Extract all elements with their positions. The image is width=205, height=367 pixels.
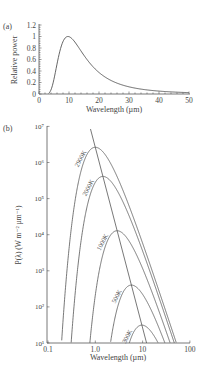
panel-a-x-tick-label: 30 [125, 96, 133, 105]
panel-b-y-tick-label: 10⁷ [35, 123, 45, 131]
panel-b-x-label: Wavelength (µm) [90, 353, 147, 362]
panel-a-x-tick-label: 20 [95, 96, 103, 105]
panel-a-y-tick-label: 0.2 [27, 78, 37, 87]
curve-2000K [71, 176, 174, 343]
panel-a-y-tick-label: 0.4 [27, 67, 37, 76]
wien-displacement-line [90, 129, 146, 343]
panel-a-y-tick-label: 0 [32, 90, 36, 99]
panel-a: (a) 0102030405000.20.40.60.811.2 Wavelen… [3, 21, 193, 115]
panel-b-y-tick-label: 10³ [35, 267, 44, 275]
panel-a-x-tick-label: 50 [185, 96, 193, 105]
curve-300K [129, 325, 158, 343]
panel-a-curve [49, 37, 189, 94]
panel-b-y-tick-label: 10⁵ [35, 195, 45, 203]
figure: (a) 0102030405000.20.40.60.811.2 Wavelen… [0, 0, 205, 367]
panel-b-y-tick-label: 10² [35, 303, 44, 311]
panel-b: (b) 0.11.01010010¹10²10³10⁴10⁵10⁶10⁷ 290… [3, 123, 196, 362]
panel-a-y-tick-label: 0.8 [27, 44, 37, 53]
panel-a-y-tick-label: 1.2 [27, 21, 37, 30]
panel-b-x-tick-label: 100 [184, 345, 196, 354]
panel-b-y-label: P(λ) (W m⁻² µm⁻¹) [14, 205, 23, 264]
curve-2900K [62, 147, 176, 342]
panel-a-x-tick-label: 10 [65, 96, 73, 105]
panel-b-label: (b) [3, 124, 13, 133]
panel-b-x-tick-label: 0.1 [43, 345, 53, 354]
panel-a-y-label: Relative power [10, 35, 19, 84]
panel-b-y-tick-label: 10⁶ [35, 159, 45, 167]
panel-a-x-tick-label: 0 [37, 96, 41, 105]
panel-a-label: (a) [3, 22, 12, 31]
panel-b-y-tick-label: 10⁴ [35, 231, 45, 239]
panel-a-x-label: Wavelength (µm) [86, 105, 143, 114]
panel-b-y-tick-label: 10¹ [35, 340, 44, 348]
panel-a-y-tick-label: 0.6 [27, 55, 37, 64]
panel-a-x-tick-label: 40 [155, 96, 163, 105]
panel-a-y-tick-label: 1 [32, 32, 36, 41]
